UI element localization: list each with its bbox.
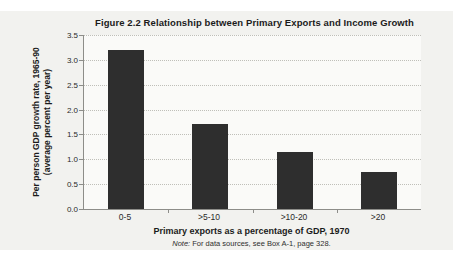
bar-0-5 — [108, 50, 144, 209]
x-tick-label: 0-5 — [95, 213, 155, 222]
y-tick-mark — [79, 184, 83, 185]
y-tick-mark — [79, 60, 83, 61]
x-tick-label: >5-10 — [179, 213, 239, 222]
y-tick-label: 1.5 — [52, 130, 78, 139]
x-axis-title: Primary exports as a percentage of GDP, … — [83, 226, 420, 236]
y-tick-mark — [79, 209, 83, 210]
y-tick-label: 3.0 — [52, 56, 78, 65]
bar->10-20 — [277, 152, 313, 209]
y-axis-title: Per person GDP growth rate, 1965-90 (ave… — [31, 22, 52, 222]
y-tick-mark — [79, 110, 83, 111]
y-tick-label: 2.0 — [52, 106, 78, 115]
x-axis-tick-labels: 0-5>5-10>10-20>20 — [83, 213, 420, 223]
y-tick-label: 0.0 — [52, 205, 78, 214]
chart-title: Figure 2.2 Relationship between Primary … — [58, 17, 451, 28]
bar->5-10 — [192, 124, 228, 209]
x-tick-label: >10-20 — [264, 213, 324, 222]
y-tick-label: 1.0 — [52, 155, 78, 164]
y-tick-label: 3.5 — [52, 31, 78, 40]
source-note-text: For data sources, see Box A-1, page 328. — [190, 239, 331, 248]
y-tick-label: 2.5 — [52, 81, 78, 90]
y-tick-label: 0.5 — [52, 180, 78, 189]
y-axis-tick-labels: 0.00.51.01.52.02.53.03.5 — [52, 35, 78, 209]
y-tick-mark — [79, 159, 83, 160]
y-axis-title-line2: (average percent per year) — [41, 22, 52, 222]
source-note: Note: For data sources, see Box A-1, pag… — [83, 239, 420, 248]
y-tick-mark — [79, 134, 83, 135]
plot-area — [83, 35, 421, 210]
bar->20 — [361, 172, 397, 209]
y-tick-mark — [79, 85, 83, 86]
x-tick-label: >20 — [348, 213, 408, 222]
y-tick-mark — [79, 35, 83, 36]
source-note-prefix: Note: — [172, 239, 190, 248]
gridline — [84, 35, 421, 36]
y-axis-title-line1: Per person GDP growth rate, 1965-90 — [31, 22, 42, 222]
